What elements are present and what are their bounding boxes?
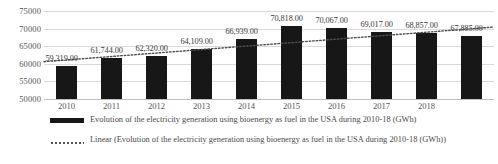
- bar-value-label: 68,857.00: [406, 22, 438, 30]
- bar-value-label: 69,017.00: [361, 21, 393, 29]
- legend-item-label: Evolution of the electricity generation …: [90, 115, 416, 126]
- bar-value-label: 62,320.00: [136, 45, 168, 53]
- bar-value-label: 66,939.00: [226, 28, 258, 36]
- x-axis-tick-label: 2013: [179, 101, 224, 111]
- x-axis-tick-label: 2014: [224, 101, 269, 111]
- x-axis-baseline: [44, 99, 494, 100]
- y-axis-tick-label: 60000: [1, 60, 41, 69]
- x-axis-tick-label: 2010: [44, 101, 89, 111]
- legend-item-trendline[interactable]: Linear (Evolution of the electricity gen…: [0, 135, 498, 146]
- bar-value-label: 59,319.00: [46, 55, 78, 63]
- bar-value-label: 61,744.00: [91, 47, 123, 55]
- y-axis-tick-label: 70000: [1, 25, 41, 34]
- y-axis: 750007000065000600005500050000: [0, 11, 41, 101]
- y-axis-tick-label: 75000: [1, 7, 41, 16]
- legend-item-bar-series[interactable]: Evolution of the electricity generation …: [0, 115, 498, 126]
- bar-value-label: 67,885.00: [451, 25, 483, 33]
- x-axis: 201020112012201320142015201620172018: [44, 101, 494, 114]
- x-axis-tick-label: 2017: [359, 101, 404, 111]
- chart-legend: Evolution of the electricity generation …: [0, 114, 498, 145]
- legend-item-label: Linear (Evolution of the electricity gen…: [90, 135, 446, 146]
- x-axis-tick-label: 2012: [134, 101, 179, 111]
- bar-value-label: 70,067.00: [316, 17, 348, 25]
- bar-chart: 750007000065000600005500050000 59,319.00…: [0, 0, 498, 164]
- x-axis-tick-label: 2011: [89, 101, 134, 111]
- bar-value-label: 70,818.00: [271, 15, 303, 23]
- x-axis-tick-label: 2018: [404, 101, 449, 111]
- legend-bar-swatch-icon: [50, 118, 84, 123]
- x-axis-tick-label: 2015: [269, 101, 314, 111]
- plot-area: 59,319.0061,744.0062,320.0064,109.0066,9…: [44, 11, 494, 99]
- y-axis-tick-label: 55000: [1, 77, 41, 86]
- bar-value-label: 64,109.00: [181, 38, 213, 46]
- y-axis-tick-label: 65000: [1, 42, 41, 51]
- y-axis-tick-label: 50000: [1, 95, 41, 104]
- x-axis-tick-label: 2016: [314, 101, 359, 111]
- legend-dotted-line-icon: [50, 138, 84, 144]
